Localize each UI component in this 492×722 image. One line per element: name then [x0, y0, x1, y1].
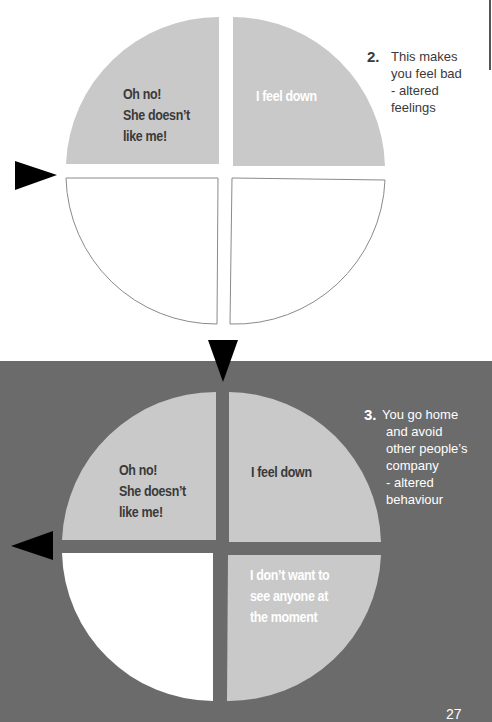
note-step-3: 3. You go home and avoid other people’s …	[364, 406, 467, 508]
bottom-quadrant-top-right-text: I feel down	[251, 462, 312, 483]
arrow-left-icon	[11, 531, 53, 560]
page-number: 27	[446, 706, 462, 722]
arrow-right-icon	[15, 161, 57, 190]
top-quadrant-bottom-left	[66, 178, 218, 324]
top-quadrant-top-left-text: Oh no! She doesn’t like me!	[123, 84, 190, 147]
note-step-2: 2. This makes you feel bad - altered fee…	[367, 48, 462, 116]
note-number: 2.	[367, 48, 380, 65]
bottom-quadrant-bottom-right-text: I don’t want to see anyone at the moment	[250, 565, 329, 628]
top-quadrant-bottom-right	[230, 178, 385, 324]
arrow-down-icon	[208, 340, 238, 382]
top-quadrant-top-right-text: I feel down	[256, 86, 317, 107]
bottom-quadrant-bottom-left	[62, 553, 213, 701]
note-number: 3.	[364, 406, 377, 423]
top-cycle-diagram	[66, 17, 385, 324]
bottom-cycle-diagram	[62, 392, 381, 701]
bottom-quadrant-top-left-text: Oh no! She doesn’t like me!	[119, 460, 186, 523]
